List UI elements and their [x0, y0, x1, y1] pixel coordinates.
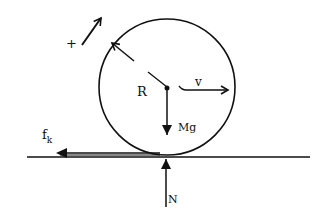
rotation-arrow-icon — [82, 18, 101, 45]
free-body-diagram: + R v Mg fk N — [0, 0, 328, 222]
friction-label: fk — [42, 128, 52, 145]
positive-rotation-label: + — [66, 37, 77, 50]
velocity-arrow-icon — [179, 86, 228, 90]
radius-arrow-icon — [112, 43, 167, 87]
velocity-label: v — [195, 76, 202, 88]
diagram-drawing — [0, 0, 328, 222]
normal-force-label: N — [168, 194, 178, 205]
friction-subscript: k — [47, 135, 52, 145]
weight-label: Mg — [178, 122, 196, 133]
radius-label: R — [137, 85, 147, 98]
